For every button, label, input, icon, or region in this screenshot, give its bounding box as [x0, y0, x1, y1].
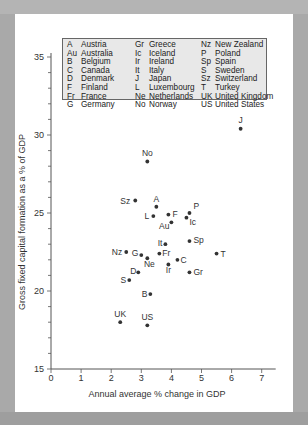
data-point: [176, 258, 180, 262]
data-point: [133, 199, 137, 203]
point-label: Ic: [189, 217, 196, 227]
x-tick-label: 3: [139, 373, 144, 383]
legend-column-3: NzNew ZealandPPolandSpSpainSSwedenSzSwit…: [201, 41, 273, 110]
point-label: US: [141, 312, 153, 322]
data-point: [215, 252, 219, 256]
point-label: S: [121, 275, 127, 285]
point-label: Nz: [112, 247, 122, 257]
point-label: Ne: [144, 259, 155, 269]
y-tick-label: 35: [34, 52, 44, 62]
point-label: J: [239, 115, 243, 125]
legend-item: PPoland: [201, 50, 273, 59]
data-point: [166, 213, 170, 217]
legend-column-2: GrGreeceIcIcelandIrIrelandItItalyJJapanL…: [135, 41, 195, 110]
data-point: [163, 242, 167, 246]
point-label: Ir: [166, 265, 171, 275]
point-label: A: [154, 194, 160, 204]
legend-country-name: United States: [215, 100, 264, 109]
data-point: [154, 205, 158, 209]
x-tick-label: 1: [79, 373, 84, 383]
legend-item: IrIreland: [135, 58, 195, 67]
data-point: [188, 270, 192, 274]
data-point: [136, 270, 140, 274]
point-label: Sz: [120, 196, 130, 206]
x-tick-label: 6: [229, 373, 234, 383]
point-label: Au: [159, 221, 170, 231]
point-label: P: [193, 201, 199, 211]
legend-column-1: AAustriaAuAustraliaBBelgiumCCanadaDDenma…: [67, 41, 115, 110]
legend-item: GGermany: [67, 101, 115, 110]
legend-item: USUnited States: [201, 101, 273, 110]
legend-item: NoNorway: [135, 101, 195, 110]
data-point: [145, 160, 149, 164]
point-label: No: [142, 148, 153, 158]
data-point: [170, 220, 174, 224]
y-tick-label: 20: [34, 286, 44, 296]
data-point: [239, 127, 243, 131]
y-tick-label: 15: [34, 364, 44, 374]
data-point: [118, 320, 122, 324]
legend: AAustriaAuAustraliaBBelgiumCCanadaDDenma…: [62, 38, 267, 100]
data-point: [148, 292, 152, 296]
data-point: [188, 211, 192, 215]
data-point: [127, 278, 131, 282]
point-label: Gr: [193, 267, 203, 277]
data-point: [157, 252, 161, 256]
x-tick-label: 5: [199, 373, 204, 383]
x-tick-label: 4: [169, 373, 174, 383]
legend-abbreviation: US: [201, 101, 215, 110]
x-axis-label: Annual average % change in GDP: [88, 389, 225, 399]
legend-country-name: Germany: [81, 100, 115, 109]
legend-abbreviation: G: [67, 101, 81, 110]
point-label: Sp: [193, 235, 204, 245]
data-point: [185, 216, 189, 220]
point-label: Fr: [162, 248, 170, 258]
point-label: L: [145, 211, 150, 221]
x-tick-label: 0: [48, 373, 53, 383]
x-tick-label: 7: [259, 373, 264, 383]
y-axis-label: Gross fixed capital formation as a % of …: [17, 134, 27, 310]
y-tick-label: 30: [34, 130, 44, 140]
data-point: [139, 253, 143, 257]
point-label: G: [132, 248, 139, 258]
y-tick-label: 25: [34, 208, 44, 218]
point-label: C: [180, 255, 186, 265]
data-point: [145, 323, 149, 327]
point-label: T: [221, 249, 226, 259]
point-label: B: [142, 289, 148, 299]
data-point: [151, 214, 155, 218]
point-label: D: [130, 266, 136, 276]
data-point: [124, 250, 128, 254]
point-label: F: [172, 209, 177, 219]
point-label: UK: [114, 309, 126, 319]
legend-abbreviation: No: [135, 101, 149, 110]
data-points: JNoSzAPLFAuIcItSpNzTGNeFrCIrDGrSBUKUS: [112, 115, 243, 327]
data-point: [188, 239, 192, 243]
x-tick-label: 2: [109, 373, 114, 383]
legend-country-name: Norway: [149, 100, 177, 109]
